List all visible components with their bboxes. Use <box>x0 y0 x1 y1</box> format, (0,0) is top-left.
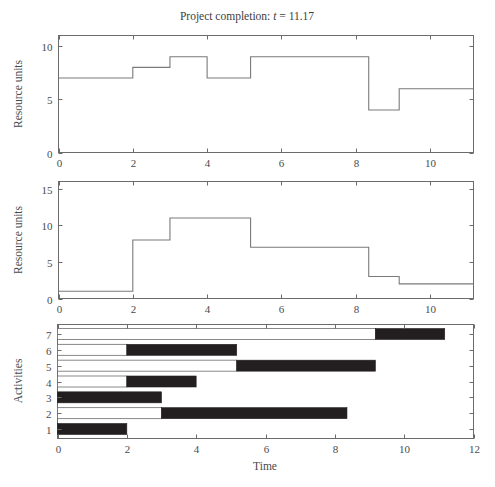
panel2-xtick-label: 6 <box>279 303 285 315</box>
panel2-xtick-label: 4 <box>205 303 211 315</box>
panel1-ytick-label: 5 <box>47 94 53 106</box>
gantt-bar-slack <box>58 376 127 387</box>
panel3-ytick-label: 6 <box>46 345 52 357</box>
svg-text:Project completion: t = 11.17: Project completion: t = 11.17 <box>180 10 314 23</box>
panel2-y-axis-label: Resource units <box>12 205 24 274</box>
gantt-row <box>58 424 127 435</box>
panel3-y-axis-label: Activities <box>12 358 24 403</box>
gantt-row <box>58 360 376 371</box>
gantt-bar-slack <box>58 408 162 419</box>
panel-gantt-activities: 0246810121234567 Activities Time <box>12 325 480 473</box>
panel2-xtick-label: 8 <box>354 303 360 315</box>
panel3-xtick-label: 4 <box>194 443 200 455</box>
chart-title: Project completion: t = 11.17 <box>180 10 314 23</box>
panel3-x-axis-label: Time <box>253 460 277 472</box>
gantt-bar-duration <box>237 360 376 371</box>
panel3-xtick-label: 0 <box>56 443 62 455</box>
panel2-ytick-label: 10 <box>42 220 54 232</box>
panel2-xtick-label: 0 <box>57 303 63 315</box>
panel2-tick-labels: 0246810051015 <box>42 184 437 315</box>
panel2-xtick-label: 2 <box>131 303 137 315</box>
panel1-xtick-label: 4 <box>205 157 211 169</box>
panel1-xtick-label: 10 <box>425 157 437 169</box>
panel3-ytick-label: 2 <box>46 408 52 420</box>
panel1-ytick-label: 10 <box>42 41 54 53</box>
panel1-tick-labels: 02468100510 <box>42 41 437 169</box>
panel3-ytick-label: 5 <box>46 361 52 373</box>
panel3-ytick-label: 3 <box>46 392 52 404</box>
gantt-row <box>58 408 347 419</box>
panel3-ytick-label: 1 <box>46 424 52 436</box>
gantt-row <box>58 392 162 403</box>
gantt-row <box>58 344 237 355</box>
panel2-ytick-label: 5 <box>47 257 53 269</box>
title-value: = 11.17 <box>276 10 314 22</box>
panel3-xtick-label: 6 <box>264 443 270 455</box>
panel1-xtick-label: 8 <box>354 157 360 169</box>
panel3-xtick-label: 8 <box>333 443 339 455</box>
panel2-ticks <box>59 182 474 300</box>
gantt-bar-slack <box>58 329 376 340</box>
gantt-bar-duration <box>375 329 444 340</box>
panel3-xtick-label: 10 <box>399 443 411 455</box>
panel1-xtick-label: 0 <box>57 157 63 169</box>
panel1-ytick-label: 0 <box>47 148 53 160</box>
panel1-step-line <box>59 57 474 110</box>
panel1-frame <box>59 36 474 153</box>
panel-resource-profile-1: 02468100510 Resource units <box>12 36 474 169</box>
gantt-row <box>58 376 197 387</box>
gantt-bars <box>58 329 445 435</box>
panel3-ytick-label: 7 <box>46 329 52 341</box>
panel2-step-line <box>59 218 474 291</box>
gantt-bar-duration <box>127 376 196 387</box>
panel3-xtick-label: 2 <box>125 443 131 455</box>
panel3-ytick-label: 4 <box>46 377 52 389</box>
panel2-ytick-label: 15 <box>42 184 54 196</box>
panel1-ticks <box>59 36 474 154</box>
figure-container: Project completion: t = 11.17 0246810051… <box>0 0 495 487</box>
panel3-xtick-label: 12 <box>469 443 480 455</box>
gantt-bar-duration <box>162 408 347 419</box>
gantt-bar-duration <box>127 344 237 355</box>
panel1-xtick-label: 2 <box>131 157 137 169</box>
gantt-row <box>58 329 445 340</box>
panel2-xtick-label: 10 <box>425 303 437 315</box>
panel-resource-profile-2: 0246810051015 Resource units <box>12 182 474 315</box>
gantt-bar-slack <box>58 344 127 355</box>
title-prefix: Project completion: <box>180 10 273 23</box>
gantt-bar-slack <box>58 360 237 371</box>
gantt-bar-duration <box>58 424 127 435</box>
panel2-ytick-label: 0 <box>47 294 53 306</box>
gantt-bar-duration <box>58 392 162 403</box>
panel1-xtick-label: 6 <box>279 157 285 169</box>
panel2-frame <box>59 182 474 299</box>
panel1-y-axis-label: Resource units <box>12 59 24 128</box>
multi-panel-chart: Project completion: t = 11.17 0246810051… <box>0 0 495 487</box>
